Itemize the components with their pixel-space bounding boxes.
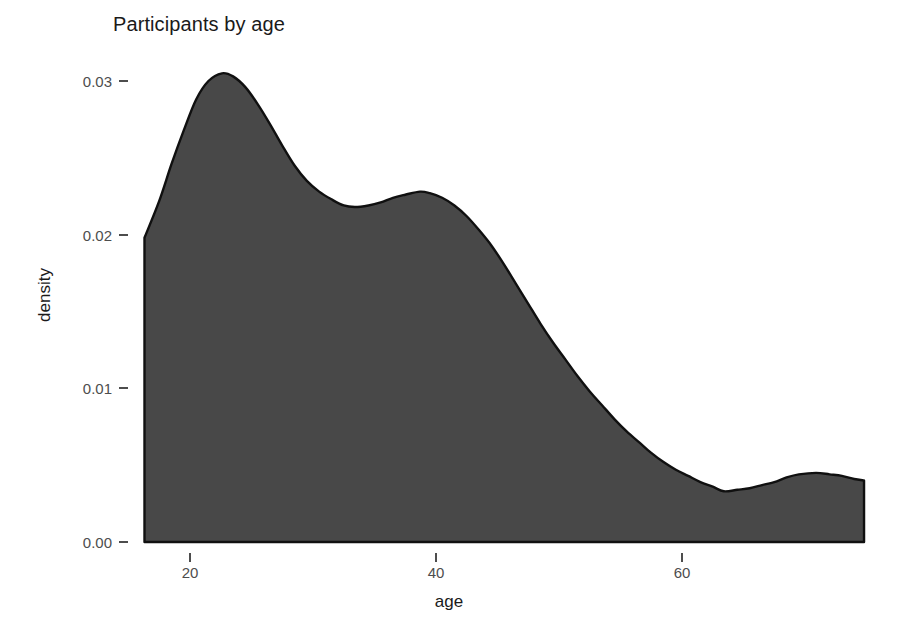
density-plot-figure: Participants by age density age 0.000.01… [0, 0, 898, 642]
density-curve-svg [0, 0, 898, 642]
density-area-fill [144, 73, 864, 542]
